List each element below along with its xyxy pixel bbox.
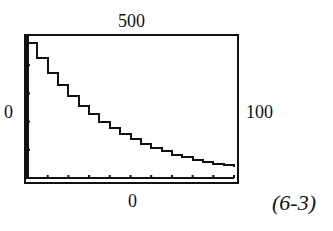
plot-frame <box>25 35 238 183</box>
data-curve <box>27 43 234 167</box>
plot-area <box>0 0 333 231</box>
